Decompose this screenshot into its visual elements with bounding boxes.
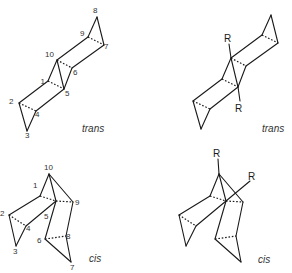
- caption-cis-right: cis: [258, 254, 270, 265]
- dashed-bond-2-4: [19, 103, 36, 111]
- atom-label-3: 3: [25, 131, 30, 140]
- bond-9-8: [66, 202, 73, 236]
- atom-label-7: 7: [70, 263, 75, 272]
- bond-9-10: [57, 37, 88, 60]
- bond-7-6: [72, 45, 104, 68]
- atom-label-5: 5: [44, 212, 49, 221]
- substituent-r-top: R: [213, 148, 220, 159]
- bond-10-1: [48, 60, 57, 81]
- bond-10-5: [57, 60, 64, 89]
- substituent-bond-side: [226, 181, 250, 201]
- substituent-r-upper: R: [224, 33, 231, 44]
- bond-1-2: [9, 196, 40, 215]
- atom-label-1: 1: [33, 181, 38, 190]
- trans-decalin-numbered: 1 2 3 4 5 6 7 8 9 10 trans: [9, 6, 109, 140]
- caption-cis-left: cis: [89, 253, 101, 264]
- trans-decalin-substituted: R R: [193, 15, 278, 129]
- dashed-bond-5-9: [56, 201, 73, 202]
- bond-5-4: [36, 89, 64, 111]
- atom-label-4: 4: [35, 110, 40, 119]
- atom-label-9: 9: [80, 29, 85, 38]
- substituent-bond-top: [218, 159, 219, 174]
- atom-label-4: 4: [26, 224, 31, 233]
- caption-trans-left: trans: [82, 123, 104, 134]
- atom-label-7: 7: [104, 42, 109, 51]
- atom-label-8: 8: [66, 232, 71, 241]
- dashed-bond-1-5: [40, 196, 56, 201]
- atom-label-10: 10: [45, 50, 54, 59]
- bond-2-3: [19, 103, 27, 131]
- cis-decalin-substituted: R R: [179, 148, 255, 262]
- bond-8-9: [88, 17, 97, 37]
- bond-10-1: [40, 174, 49, 196]
- caption-trans-right: trans: [262, 123, 284, 134]
- atom-label-2: 2: [0, 209, 5, 218]
- bond-3-4: [16, 226, 26, 246]
- substituent-bond-upper: [229, 44, 231, 58]
- bond-2-3: [9, 215, 16, 246]
- atom-label-8: 8: [93, 6, 98, 15]
- atom-label-9: 9: [75, 198, 80, 207]
- atom-label-1: 1: [41, 77, 46, 86]
- cis-decalin-numbered: 1 2 3 4 5 6 7 8 9 10 cis: [0, 163, 101, 272]
- atom-label-6: 6: [37, 236, 42, 245]
- dashed-bond-6-8: [45, 236, 66, 239]
- atom-label-2: 2: [9, 97, 14, 106]
- bond-8-7: [97, 17, 104, 45]
- dashed-bond-10-6: [57, 60, 72, 68]
- atom-label-6: 6: [73, 68, 78, 77]
- dashed-bond-9-7: [88, 37, 104, 45]
- decalin-diagram: 1 2 3 4 5 6 7 8 9 10 trans R R trans: [0, 0, 292, 273]
- atom-label-5: 5: [65, 89, 70, 98]
- atom-label-10: 10: [44, 163, 53, 172]
- dashed-bond-1-5: [48, 81, 64, 89]
- substituent-r-side: R: [248, 171, 255, 182]
- atom-label-3: 3: [13, 247, 18, 256]
- substituent-r-lower: R: [235, 103, 242, 114]
- substituent-bond-lower: [238, 87, 240, 101]
- bond-5-4: [26, 201, 56, 226]
- bond-6-5: [64, 68, 72, 89]
